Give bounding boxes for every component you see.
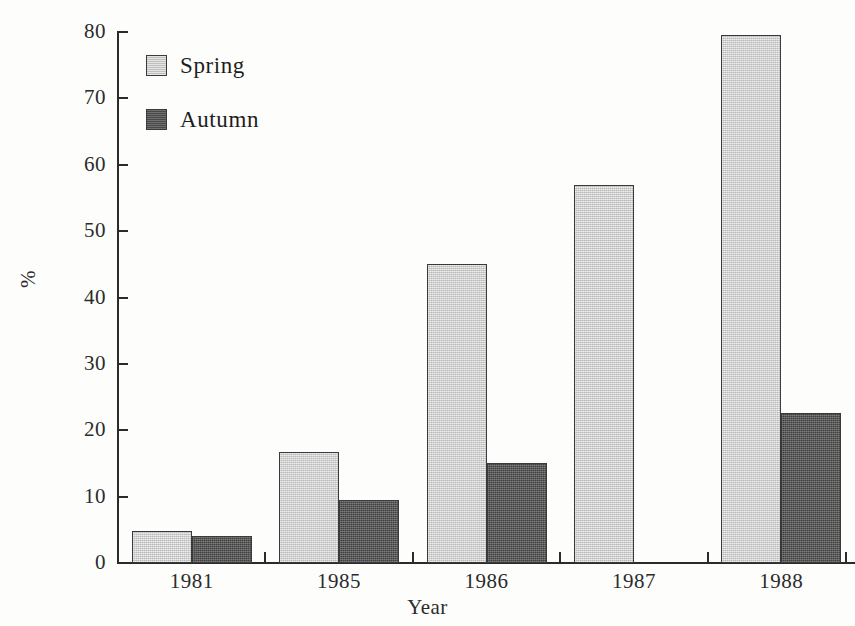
bar-1987-spring [574,185,634,563]
legend-label-spring: Spring [180,54,245,77]
y-axis-tick-label: 70 [62,87,106,108]
legend-label-autumn: Autumn [180,108,259,131]
y-axis-tick-label: 40 [62,287,106,308]
x-axis-category-label: 1987 [560,570,707,593]
x-axis-tick [412,552,414,563]
bar-1986-autumn [487,463,547,563]
x-axis-tick [707,552,709,563]
bar-1981-spring [132,531,192,563]
x-axis-category-label: 1985 [265,570,412,593]
bar-1986-spring [427,264,487,563]
y-axis-tick-label: 0 [62,552,106,573]
y-axis-tick-label: 60 [62,154,106,175]
y-axis-title: % [18,271,39,289]
y-axis-tick-label: 80 [62,21,106,42]
bar-1981-autumn [192,536,252,563]
x-axis-tick [559,552,561,563]
legend-item-spring: Spring [146,46,259,84]
x-axis-tick [264,552,266,563]
y-axis-tick-label: 30 [62,353,106,374]
y-axis-tick-label: 10 [62,486,106,507]
x-axis-category-label: 1988 [708,570,855,593]
legend-swatch-icon-autumn [146,109,167,130]
legend-swatch-icon-spring [146,55,167,76]
bar-1988-spring [721,35,781,563]
legend: Spring Autumn [146,46,259,138]
y-axis-tick-label: 20 [62,419,106,440]
x-axis-category-label: 1981 [118,570,265,593]
x-axis-title: Year [0,596,855,618]
y-axis-tick-label: 50 [62,220,106,241]
bar-1988-autumn [781,413,841,563]
bar-chart: 01020304050607080 % 19811985198619871988… [0,0,855,626]
bar-1985-autumn [339,500,399,563]
bar-1985-spring [279,452,339,563]
legend-item-autumn: Autumn [146,100,259,138]
x-axis-category-label: 1986 [413,570,560,593]
